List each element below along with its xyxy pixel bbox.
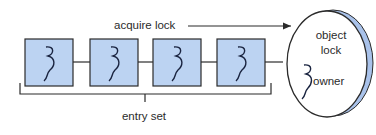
object-label: object bbox=[316, 29, 347, 41]
thread-box-4 bbox=[217, 39, 265, 86]
owner-label: owner bbox=[313, 75, 344, 87]
thread-box-2 bbox=[90, 39, 138, 86]
lock-label: lock bbox=[321, 44, 342, 56]
monitor-entry-set-diagram: entry set acquire lock object lock owner bbox=[0, 0, 376, 135]
thread-box-1 bbox=[25, 39, 73, 86]
entry-set-label: entry set bbox=[122, 110, 167, 122]
object-lock: object lock owner bbox=[287, 10, 373, 117]
thread-box-3 bbox=[153, 39, 201, 86]
acquire-lock-label: acquire lock bbox=[114, 19, 176, 31]
